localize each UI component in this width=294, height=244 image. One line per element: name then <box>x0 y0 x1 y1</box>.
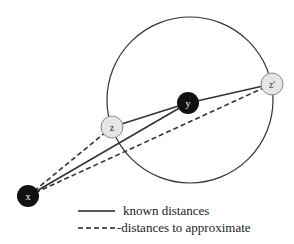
node-z-prime: z' <box>261 73 283 95</box>
node-z: z <box>101 116 123 138</box>
distance-diagram: x z y z' known distances -distances to a… <box>0 0 294 244</box>
node-x: x <box>17 185 39 207</box>
legend-solid-label: known distances <box>123 203 209 218</box>
legend: known distances -distances to approximat… <box>78 203 251 235</box>
node-y-label: y <box>186 98 191 109</box>
legend-dashed-label: -distances to approximate <box>117 220 251 235</box>
edge-x-z-dashed <box>28 127 112 196</box>
node-y: y <box>177 92 199 114</box>
edge-x-zprime-dashed <box>28 84 272 196</box>
node-z-prime-label: z' <box>269 79 275 90</box>
node-z-label: z <box>110 122 115 133</box>
edge-z-y <box>112 103 188 127</box>
edge-y-zprime <box>188 84 272 103</box>
node-x-label: x <box>26 191 31 202</box>
